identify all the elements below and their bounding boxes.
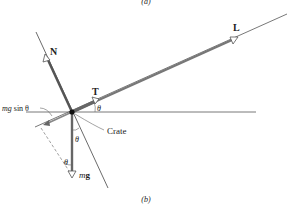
vector-T xyxy=(72,101,96,112)
label-N: N xyxy=(50,46,58,57)
label-L: L xyxy=(233,22,240,33)
caption-b: (b) xyxy=(141,195,151,204)
caption-a: (a) xyxy=(141,0,151,6)
label-mg-sin-theta: mg sin θ xyxy=(2,104,29,113)
leader-crate xyxy=(75,114,104,130)
dashed-projection-line xyxy=(41,128,71,174)
label-theta-mg: θ xyxy=(75,135,79,144)
label-T: T xyxy=(92,86,99,97)
free-body-diagram: (a) L T N mg mg sin θ Crate θ θ θ (b) xyxy=(0,0,293,204)
label-mg-g: g xyxy=(86,170,91,180)
label-mg: mg xyxy=(79,170,91,180)
label-theta-dashed: θ xyxy=(64,158,68,167)
vector-mg-sin xyxy=(46,112,72,124)
arrowhead-mg-icon xyxy=(68,171,76,178)
crate-dot xyxy=(69,109,74,114)
label-theta-T: θ xyxy=(97,104,101,113)
label-mg-sin-m: mg xyxy=(2,104,12,113)
label-mg-sin-rest: sin θ xyxy=(12,104,29,113)
label-crate: Crate xyxy=(107,126,127,136)
arrowhead-L-icon xyxy=(230,37,238,44)
vector-N xyxy=(48,60,72,112)
